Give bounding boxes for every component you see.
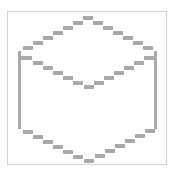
cube-bottom-edges — [23, 129, 155, 163]
cube-top-face-edges — [23, 16, 153, 50]
cube-icon — [0, 0, 173, 172]
cube-inner-edges — [21, 56, 155, 89]
